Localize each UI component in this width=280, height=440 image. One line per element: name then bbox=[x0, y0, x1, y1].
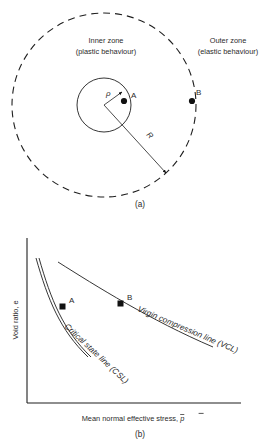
panel-a-diagram: Inner zone (plastic behaviour) Outer zon… bbox=[0, 0, 280, 215]
capital-r-radius-arrow bbox=[104, 105, 166, 173]
y-axis-title: Void ratio, e bbox=[11, 300, 20, 339]
panel-b-point-b-marker bbox=[118, 301, 124, 307]
inner-zone-label-line2: (plastic behaviour) bbox=[76, 47, 136, 56]
point-b-marker bbox=[189, 98, 195, 104]
rho-symbol-label: ρ bbox=[105, 89, 111, 98]
x-axis-title-prefix: Mean normal effective stress, bbox=[82, 414, 180, 423]
outer-zone-label-line1: Outer zone bbox=[210, 36, 247, 45]
point-a-marker bbox=[121, 98, 127, 104]
outer-zone-label-line2: (elastic behaviour) bbox=[198, 47, 258, 56]
x-axis-title: Mean normal effective stress, p bbox=[82, 414, 185, 423]
figure-page: Inner zone (plastic behaviour) Outer zon… bbox=[0, 0, 280, 440]
panel-b-chart: A B Virgin compression line (VCL) Critic… bbox=[0, 215, 280, 440]
capital-r-symbol-label: R bbox=[145, 130, 156, 141]
panel-a-point-b-label: B bbox=[196, 88, 201, 97]
panel-a-point-a-label: A bbox=[131, 91, 137, 100]
inner-zone-label-line1: Inner zone bbox=[89, 36, 124, 45]
panel-a-caption: (a) bbox=[135, 200, 145, 209]
x-axis-title-symbol: p bbox=[179, 414, 184, 423]
panel-b-point-a-marker bbox=[60, 304, 66, 310]
csl-curve-label: Critical state line (CSL) bbox=[63, 322, 131, 386]
vcl-curve-label: Virgin compression line (VCL) bbox=[136, 305, 239, 356]
panel-b-point-b-label: B bbox=[127, 293, 132, 302]
panel-b-point-a-label: A bbox=[69, 296, 75, 305]
panel-b-caption: (b) bbox=[135, 430, 145, 439]
